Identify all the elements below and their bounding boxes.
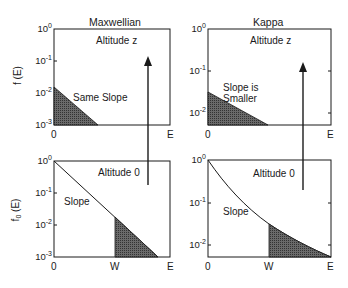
arrow-maxwellian-up (144, 56, 152, 185)
diagram-graphics (0, 0, 348, 288)
x-tick-w: W (110, 261, 119, 272)
tick-1e-1: 10-1 (28, 55, 52, 66)
arrow-kappa-up (299, 62, 307, 190)
x-tick-0: 0 (51, 129, 57, 140)
tick-1e-2: 10-2 (182, 107, 206, 118)
x-tick-w: W (264, 261, 273, 272)
x-tick-0: 0 (51, 261, 57, 272)
tick-1e-3: 10-3 (28, 119, 52, 130)
tick-1e-1: 10-1 (182, 197, 206, 208)
slope-annotation: Slope (223, 206, 249, 217)
x-tick-e: E (327, 129, 334, 140)
tick-1e0: 100 (28, 23, 52, 34)
tick-1e-2: 10-2 (28, 219, 52, 230)
maxwellian-title: Maxwellian (89, 17, 141, 28)
altitude-z-label: Altitude z (96, 35, 137, 46)
tick-1e0: 100 (28, 155, 52, 166)
y-axis-label-bottom: f0 (E) (10, 199, 22, 222)
altitude-0-label: Altitude 0 (253, 168, 295, 179)
slope-smaller-annotation-1: Slope is (223, 82, 259, 93)
x-tick-e: E (327, 261, 334, 272)
x-tick-e: E (167, 129, 174, 140)
kappa-title: Kappa (253, 17, 283, 28)
tick-1e-2: 10-2 (28, 87, 52, 98)
tick-1e-2: 10-2 (182, 239, 206, 250)
tick-1e0: 100 (182, 23, 206, 34)
shaded-area (115, 217, 158, 257)
x-tick-0: 0 (205, 129, 211, 140)
x-tick-e: E (167, 261, 174, 272)
x-tick-0: 0 (205, 261, 211, 272)
tick-1e0: 100 (182, 154, 206, 165)
tick-1e-3: 10-3 (28, 251, 52, 262)
altitude-z-label: Altitude z (250, 35, 291, 46)
tick-1e-1: 10-1 (28, 187, 52, 198)
same-slope-annotation: Same Slope (73, 92, 127, 103)
y-axis-label-top: f (E) (12, 66, 23, 85)
altitude-0-label: Altitude 0 (98, 167, 140, 178)
tick-1e-1: 10-1 (182, 65, 206, 76)
slope-annotation: Slope (64, 196, 90, 207)
shaded-area (269, 224, 331, 257)
slope-smaller-annotation-2: Smaller (223, 93, 257, 104)
